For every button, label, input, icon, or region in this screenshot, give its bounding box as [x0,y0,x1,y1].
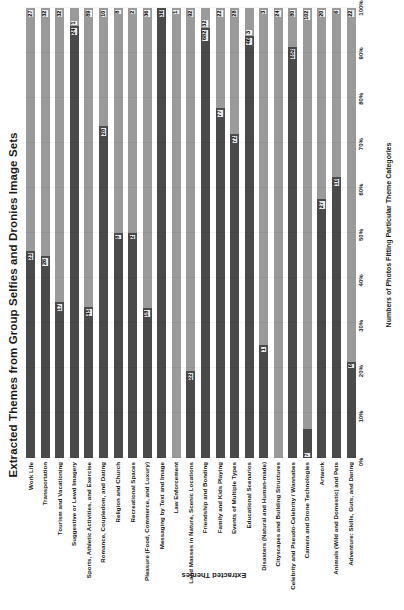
bar-rows: Work Life2327Transportation2632Tourism a… [24,8,358,594]
stacked-bar[interactable]: 1732 [55,8,64,458]
bar-segment[interactable]: 1 [70,8,79,26]
stacked-bar[interactable]: 241 [70,8,79,458]
bar-segment[interactable]: 80 [288,8,297,47]
x-tick-label: 0% [358,458,364,467]
bar-segment[interactable]: 28 [99,126,108,458]
stacked-bar[interactable]: 2810 [99,8,108,458]
bar-value-label: 36 [159,10,165,17]
stacked-bar[interactable]: 22 [128,8,137,458]
bar-segment[interactable]: 3 [245,8,254,36]
bar-segment[interactable]: 10 [332,177,341,458]
bar-category-label: Camera and Drone Technologies [304,458,310,594]
bar-segment[interactable]: 22 [186,371,195,458]
gridline [24,367,358,368]
gridline [24,7,358,8]
bar-segment[interactable]: 23 [26,251,35,458]
bar-row: Romance, Coupledom, and Dating2810 [97,8,110,594]
stacked-bar[interactable]: 2720 [317,8,326,458]
bar-segment[interactable]: 32 [41,8,50,256]
gridline [24,412,358,413]
bar-segment[interactable]: 7 [303,429,312,458]
bar-segment[interactable]: 24 [274,8,283,458]
stacked-bar[interactable]: 106 [332,8,341,458]
bar-segment[interactable]: 2 [128,8,137,233]
bar-value-label: 17 [57,304,63,311]
chart-canvas: Extracted Themes from Group Selfies and … [0,0,404,610]
stacked-bar[interactable]: 7102 [303,8,312,458]
bar-segment[interactable]: 45 [84,307,93,458]
rotated-chart-stage: Extracted Themes from Group Selfies and … [0,0,404,610]
gridline [24,187,358,188]
bar-segment[interactable]: 28 [230,8,239,134]
gridline [24,322,358,323]
bar-segment[interactable]: 22 [347,8,356,362]
bar-value-label: 102 [305,10,311,20]
stacked-bar[interactable]: 68232 [201,8,210,458]
bar-value-label: 92 [188,10,194,17]
bar-value-label: 3 [261,10,267,14]
bar-segment[interactable]: 27 [26,8,35,251]
bar-segment[interactable]: 6 [347,362,356,458]
stacked-bar[interactable]: 85280 [288,8,297,458]
bar-value-label: 2 [130,10,136,14]
stacked-bar[interactable]: 024 [274,8,283,458]
bar-segment[interactable]: 36 [143,8,152,308]
bar-category-label: Tourism and Vacationing [57,458,63,594]
stacked-bar[interactable]: 88 [114,8,123,458]
bar-segment[interactable]: 17 [55,302,64,458]
bar-value-label: 3 [246,30,252,34]
gridline [24,52,358,53]
bar-segment[interactable]: 22 [216,8,225,108]
bar-segment[interactable]: 10 [99,8,108,126]
bar-segment[interactable]: 46 [245,36,254,458]
bar-segment[interactable]: 1 [172,8,181,458]
stacked-bar[interactable]: 7722 [216,8,225,458]
bar-segment[interactable]: 27 [317,200,326,459]
stacked-bar[interactable]: 360 [157,8,166,458]
x-tick-label: 70% [358,138,364,150]
stacked-bar[interactable]: 13 [259,8,268,458]
bar-segment[interactable]: 24 [70,26,79,458]
bar-segment[interactable]: 26 [41,256,50,458]
x-tick-label: 100% [358,0,364,15]
stacked-bar[interactable]: 463 [245,8,254,458]
bar-segment[interactable]: 102 [303,8,312,429]
bar-segment[interactable]: 682 [201,28,210,458]
bar-segment[interactable]: 72 [230,134,239,458]
stacked-bar[interactable]: 2292 [186,8,195,458]
stacked-bar[interactable]: 622 [347,8,356,458]
bar-segment[interactable]: 3 [259,8,268,346]
bar-value-label: 2 [130,235,136,239]
bar-category-label: Religion and Church [115,458,121,594]
stacked-bar[interactable]: 01 [172,8,181,458]
stacked-bar[interactable]: 1836 [143,8,152,458]
bar-row: Religion and Church88 [111,8,124,594]
stacked-bar[interactable]: 2632 [41,8,50,458]
bar-segment[interactable]: 8 [114,8,123,233]
bar-value-label: 27 [28,10,34,17]
bar-segment[interactable]: 32 [201,8,210,28]
x-tick-label: 40% [358,274,364,286]
bar-segment[interactable]: 8 [114,233,123,458]
bar-segment[interactable]: 36 [157,8,166,458]
bar-segment[interactable]: 6 [332,8,341,177]
stacked-bar[interactable]: 2327 [26,8,35,458]
bar-segment[interactable]: 92 [186,8,195,371]
gridline [24,277,358,278]
bar-value-label: 27 [319,202,325,209]
x-tick-label: 10% [358,411,364,423]
bar-row: Events of Multiple Types7228 [228,8,241,594]
bar-segment[interactable]: 18 [143,308,152,458]
bar-segment[interactable]: 2 [128,233,137,458]
bar-value-label: 28 [101,128,107,135]
stacked-bar[interactable]: 7228 [230,8,239,458]
bar-segment[interactable]: 20 [317,8,326,199]
bar-segment[interactable]: 1 [259,346,268,459]
bar-segment[interactable]: 77 [216,108,225,458]
bar-value-label: 24 [72,28,78,35]
bar-value-label: 32 [42,10,48,17]
bar-row: Messaging by Text and Image360 [155,8,168,594]
stacked-bar[interactable]: 4589 [84,8,93,458]
bar-segment[interactable]: 852 [288,47,297,458]
bar-category-label: Law Enforcement [173,458,179,594]
